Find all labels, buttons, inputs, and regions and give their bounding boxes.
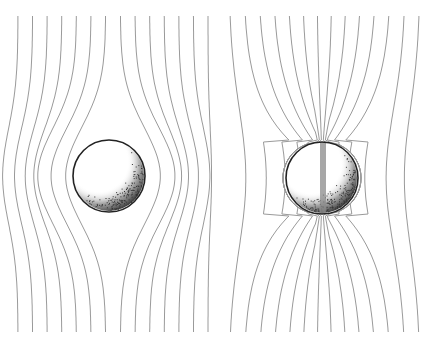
field-line bbox=[3, 16, 18, 332]
right-panel-concentrated-field bbox=[230, 16, 419, 332]
field-line bbox=[38, 16, 77, 332]
field-line bbox=[193, 16, 210, 332]
field-line bbox=[386, 16, 404, 332]
field-line bbox=[164, 16, 188, 332]
left-panel-deflected-field bbox=[3, 16, 212, 332]
vertical-rod bbox=[320, 142, 326, 214]
field-line-diagram bbox=[0, 0, 433, 348]
diagram bbox=[0, 0, 433, 348]
field-line bbox=[25, 16, 47, 332]
field-line bbox=[404, 16, 419, 332]
field-line bbox=[230, 16, 246, 332]
